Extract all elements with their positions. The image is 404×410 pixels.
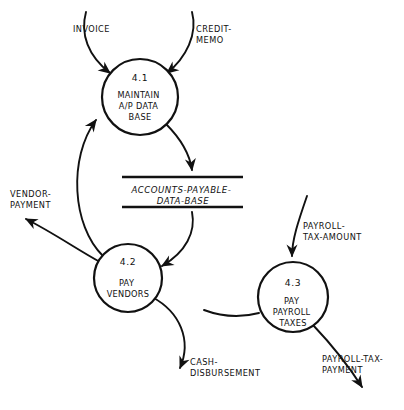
flow-line-ap-update bbox=[166, 124, 192, 170]
flow-line-vendor-feedback bbox=[77, 120, 103, 256]
flow-line-credit-memo bbox=[167, 12, 194, 73]
flow-line-invoice bbox=[84, 12, 110, 73]
flow-label-vendor-payment: VENDOR- PAYMENT bbox=[10, 189, 54, 210]
data-flow-diagram: ACCOUNTS-PAYABLE- DATA-BASE 4.1 MAINTAIN… bbox=[0, 0, 404, 410]
data-store-label: ACCOUNTS-PAYABLE- DATA-BASE bbox=[130, 185, 234, 206]
flow-label-invoice: INVOICE bbox=[73, 24, 110, 34]
flow-line-vendor-payment bbox=[26, 219, 100, 262]
process-number-4-3: 4.3 bbox=[285, 277, 301, 288]
flow-label-payroll-tax-amount: PAYROLL- TAX-AMOUNT bbox=[302, 221, 362, 242]
flow-line-tax-stub bbox=[204, 310, 259, 316]
flow-line-ap-read bbox=[162, 212, 193, 266]
flow-label-payroll-tax-payment: PAYROLL-TAX- PAYMENT bbox=[322, 354, 386, 375]
diagram-canvas: ACCOUNTS-PAYABLE- DATA-BASE 4.1 MAINTAIN… bbox=[0, 0, 404, 410]
process-number-4-2: 4.2 bbox=[120, 256, 136, 267]
flow-label-cash-disbursement: CASH- DISBURSEMENT bbox=[190, 357, 261, 378]
flow-label-credit-memo: CREDIT- MEMO bbox=[196, 24, 235, 45]
flow-line-cash-disbursement bbox=[152, 297, 185, 368]
process-number-4-1: 4.1 bbox=[132, 72, 148, 83]
